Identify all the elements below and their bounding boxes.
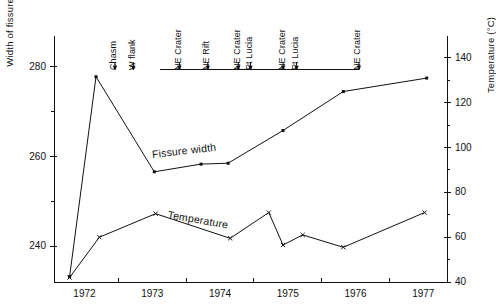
series-line-temperature bbox=[70, 213, 425, 278]
x-axis-tick-label-1972: 1972 bbox=[61, 288, 107, 299]
y-axis-left-tick-label-240: 240 bbox=[16, 240, 46, 251]
event-label-7-pt-lucia: Pt Lucia bbox=[290, 37, 300, 70]
y-axis-right-tick-label-80: 80 bbox=[455, 186, 485, 197]
datapoint-fissure-width-4 bbox=[227, 162, 230, 165]
event-label-3-ne-rift: NE Rift bbox=[201, 41, 211, 70]
datapoint-fissure-width-1 bbox=[95, 75, 98, 78]
y-axis-right-tick-label-120: 120 bbox=[455, 97, 485, 108]
event-label-8-ne-crater: NE Crater bbox=[352, 29, 362, 70]
datapoint-temperature-4 bbox=[267, 210, 271, 214]
x-axis-tick-label-1976: 1976 bbox=[333, 288, 379, 299]
datapoint-temperature-2 bbox=[154, 212, 158, 216]
datapoint-fissure-width-3 bbox=[200, 163, 203, 166]
series-line-fissure-width bbox=[70, 77, 427, 277]
y-axis-right-label: Temperature (°C) bbox=[485, 0, 496, 120]
datapoint-fissure-width-5 bbox=[282, 129, 285, 132]
y-axis-right-tick-label-140: 140 bbox=[455, 52, 485, 63]
datapoint-temperature-1 bbox=[97, 235, 101, 239]
event-label-6-ne-crater: NE Crater bbox=[277, 29, 287, 70]
y-axis-right-tick-label-100: 100 bbox=[455, 142, 485, 153]
y-axis-right-tick-label-40: 40 bbox=[455, 276, 485, 287]
x-axis-tick-label-1974: 1974 bbox=[197, 288, 243, 299]
x-axis-tick-label-1975: 1975 bbox=[265, 288, 311, 299]
datapoint-temperature-5 bbox=[281, 243, 285, 247]
event-label-4-ne-crater: NE Crater bbox=[232, 29, 242, 70]
event-label-0-chasm: Chasm bbox=[108, 41, 118, 70]
y-axis-right-tick-label-60: 60 bbox=[455, 231, 485, 242]
y-axis-left-tick-label-280: 280 bbox=[16, 61, 46, 72]
datapoint-fissure-width-2 bbox=[153, 170, 156, 173]
event-label-1-w-flank: W flank bbox=[127, 39, 137, 70]
datapoint-fissure-width-6 bbox=[342, 90, 345, 93]
event-label-2-ne-crater: NE Crater bbox=[173, 29, 183, 70]
x-axis-tick-label-1973: 1973 bbox=[129, 288, 175, 299]
y-axis-left-tick-label-260: 260 bbox=[16, 151, 46, 162]
datapoint-temperature-8 bbox=[423, 210, 427, 214]
datapoint-fissure-width-7 bbox=[425, 77, 428, 80]
event-label-5-pt-lucia: Pt Lucia bbox=[244, 37, 254, 70]
x-axis-tick-label-1977: 1977 bbox=[400, 288, 446, 299]
y-axis-left-label: Width of fissure (cm) bbox=[4, 0, 15, 96]
